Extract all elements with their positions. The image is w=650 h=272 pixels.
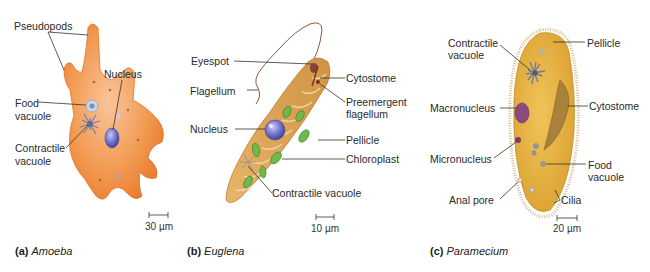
paramecium-illustration bbox=[494, 29, 588, 221]
caption-amoeba: (a) Amoeba bbox=[15, 245, 72, 257]
label-anal-pore: Anal pore bbox=[449, 194, 494, 206]
caption-paramecium-name: Paramecium bbox=[447, 245, 509, 257]
amoeba-scale-bar-label: 30 µm bbox=[144, 221, 174, 232]
caption-amoeba-letter: (a) bbox=[15, 245, 32, 257]
label-para-cytostome: Cytostome bbox=[589, 100, 639, 112]
label-flagellum: Flagellum bbox=[190, 85, 236, 97]
label-euglena-pellicle: Pellicle bbox=[346, 134, 379, 146]
caption-paramecium: (c) Paramecium bbox=[430, 245, 508, 257]
label-euglena-contractile-vacuole: Contractile vacuole bbox=[272, 187, 361, 199]
label-para-contractile-vacuole-line2: vacuole bbox=[448, 49, 484, 61]
label-preemergent-line1: Preemergent bbox=[346, 96, 407, 108]
label-cilia: Cilia bbox=[561, 194, 581, 206]
label-amoeba-food-vacuole-line1: Food bbox=[15, 97, 39, 109]
label-macronucleus: Macronucleus bbox=[430, 102, 495, 114]
label-amoeba-nucleus: Nucleus bbox=[104, 68, 142, 80]
label-para-pellicle: Pellicle bbox=[587, 37, 620, 49]
label-para-food-vacuole-line1: Food bbox=[588, 159, 612, 171]
label-preemergent-line2: flagellum bbox=[346, 108, 388, 120]
label-para-contractile-vacuole-line1: Contractile bbox=[448, 37, 498, 49]
caption-euglena: (b) Euglena bbox=[187, 245, 244, 257]
label-amoeba-contractile-vacuole-line2: vacuole bbox=[15, 155, 51, 167]
label-euglena-cytostome: Cytostome bbox=[346, 72, 396, 84]
amoeba-illustration bbox=[38, 24, 168, 218]
label-micronucleus: Micronucleus bbox=[430, 153, 492, 165]
paramecium-scale-bar-label: 20 µm bbox=[552, 223, 582, 234]
euglena-scale-bar-label: 10 µm bbox=[310, 223, 340, 234]
caption-euglena-letter: (b) bbox=[187, 245, 204, 257]
label-amoeba-food-vacuole-line2: vacuole bbox=[15, 110, 51, 122]
label-euglena-nucleus: Nucleus bbox=[190, 123, 228, 135]
caption-paramecium-letter: (c) bbox=[430, 245, 447, 257]
label-para-food-vacuole-line2: vacuole bbox=[588, 171, 624, 183]
caption-amoeba-name: Amoeba bbox=[32, 245, 73, 257]
label-amoeba-contractile-vacuole-line1: Contractile bbox=[15, 142, 65, 154]
label-chloroplast: Chloroplast bbox=[346, 153, 399, 165]
caption-euglena-name: Euglena bbox=[204, 245, 244, 257]
label-eyespot: Eyespot bbox=[191, 55, 229, 67]
label-pseudopods: Pseudopods bbox=[14, 20, 72, 32]
